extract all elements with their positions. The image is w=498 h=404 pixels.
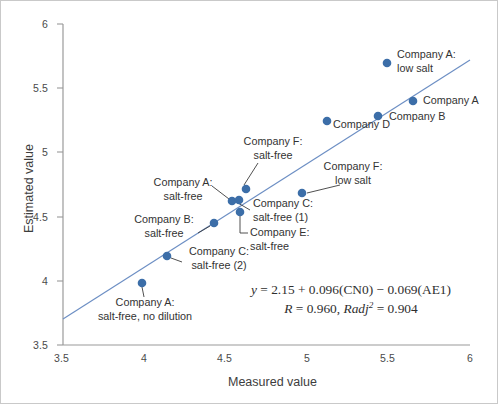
data-point — [235, 196, 244, 205]
scatter-plot-figure: 3.5 4 4.5 5 5.5 6 3.5 4 4.5 5 5.5 6 Esti… — [0, 0, 498, 404]
label-company-a: Company A — [423, 94, 479, 108]
data-point — [409, 97, 418, 106]
label-company-f-salt-free: Company F: salt-free — [228, 135, 318, 163]
x-tick-label-4: 4 — [141, 352, 147, 364]
data-point — [242, 185, 251, 194]
data-point — [298, 189, 307, 198]
label-company-b: Company B — [389, 110, 445, 124]
label-company-a-no-dilution: Company A: salt-free, no dilution — [86, 296, 204, 324]
label-company-c-salt-free-1: Company C: salt-free (1) — [253, 197, 313, 225]
label-company-b-salt-free: Company B: salt-free — [128, 213, 200, 241]
label-company-c-salt-free-2: Company C: salt-free (2) — [180, 245, 258, 273]
x-axis-title: Measured value — [228, 375, 317, 389]
data-point — [236, 208, 245, 217]
y-tick-label-5: 5 — [42, 146, 48, 158]
label-company-f-low-salt: Company F: low salt — [310, 160, 396, 188]
y-tick-label-6: 6 — [42, 18, 48, 30]
y-axis-title: Estimated value — [22, 144, 36, 233]
x-tick-label-6: 6 — [467, 352, 473, 364]
data-point — [138, 279, 147, 288]
label-company-e-salt-free: Company E: salt-free — [250, 226, 309, 254]
data-point — [383, 59, 392, 68]
x-tick-label-3-5: 3.5 — [54, 352, 69, 364]
equation-radj-symbol: Radj — [344, 302, 369, 317]
equation-r-value: = 0.960, — [292, 302, 343, 317]
equation-radj-value: = 0.904 — [373, 302, 417, 317]
label-company-d: Company D — [333, 118, 390, 132]
data-point — [323, 117, 332, 126]
x-tick-label-4-5: 4.5 — [217, 352, 232, 364]
y-tick-label-5-5: 5.5 — [33, 82, 48, 94]
y-tick-label-3-5: 3.5 — [33, 339, 48, 351]
data-point — [210, 219, 219, 228]
data-point — [163, 252, 172, 261]
y-tick-label-4: 4 — [42, 275, 48, 287]
x-tick-label-5: 5 — [304, 352, 310, 364]
regression-equation-annotation: y = 2.15 + 0.096(CN0) − 0.069(AE1) R = 0… — [236, 281, 466, 319]
label-company-a-low-salt: Company A: low salt — [397, 48, 456, 76]
label-company-a-salt-free: Company A: salt-free — [148, 176, 218, 204]
equation-rhs: = 2.15 + 0.096(CN0) − 0.069(AE1) — [257, 282, 451, 297]
x-tick-label-5-5: 5.5 — [380, 352, 395, 364]
y-axis-ticks — [57, 24, 63, 345]
